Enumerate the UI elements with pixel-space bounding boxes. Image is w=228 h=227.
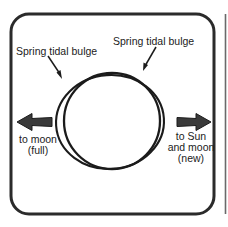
label-to-sun-line-3: (new) <box>160 153 222 164</box>
spring-tide-figure: Spring tidal bulge Spring tidal bulge to… <box>0 0 228 227</box>
label-to-sun-and-moon: to Sun and moon (new) <box>160 131 222 164</box>
label-to-moon-line-2: (full) <box>9 145 67 156</box>
label-to-moon: to moon (full) <box>9 134 67 156</box>
label-spring-tidal-bulge-left: Spring tidal bulge <box>16 46 97 57</box>
label-spring-tidal-bulge-right: Spring tidal bulge <box>113 36 194 47</box>
